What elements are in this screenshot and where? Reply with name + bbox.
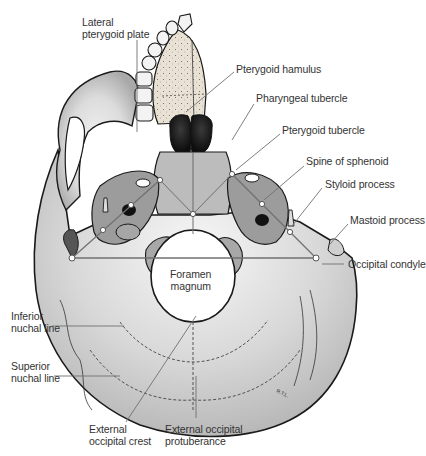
label-external-occipital-protuberance: External occipital protuberance <box>165 423 243 447</box>
label-styloid-process: Styloid process <box>325 178 395 190</box>
mastoid-right <box>328 239 344 256</box>
label-superior-nuchal-line: Superior nuchal line <box>11 360 60 384</box>
foramen-ovale-left <box>136 179 150 187</box>
label-pterygoid-hamulus: Pterygoid hamulus <box>236 63 321 75</box>
label-foramen-magnum: Foramen magnum <box>170 268 211 292</box>
label-lateral-pterygoid-plate: Lateral pterygoid plate <box>82 16 149 40</box>
label-external-occipital-crest: External occipital crest <box>89 423 151 447</box>
label-spine-of-sphenoid: Spine of sphenoid <box>306 155 388 167</box>
label-mastoid-process: Mastoid process <box>350 214 425 226</box>
label-pharyngeal-tubercle: Pharyngeal tubercle <box>256 92 348 104</box>
label-pterygoid-tubercle: Pterygoid tubercle <box>282 124 365 136</box>
styloid-left <box>103 198 108 212</box>
label-inferior-nuchal-line: Inferior nuchal line <box>11 310 60 334</box>
basi-occiput <box>154 152 232 214</box>
label-occipital-condyle: Occipital condyle <box>348 258 426 270</box>
styloid-right <box>288 210 294 226</box>
foramen-ovale-right <box>245 174 259 182</box>
choanae <box>170 115 213 152</box>
